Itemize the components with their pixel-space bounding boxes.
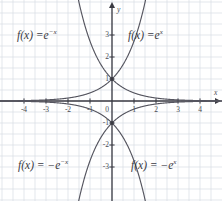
annotation-tl-lhs: f(x) =	[17, 29, 44, 41]
curve-neg-exp-x	[0, 101, 146, 201]
x-tick-1: 1	[125, 106, 143, 114]
intercept-marker	[110, 77, 114, 81]
annotation-br-exp: x	[173, 158, 176, 166]
y-tick-2: 2	[95, 53, 109, 61]
annotation-neg-exp-neg-x: f(x) = −e−x	[18, 160, 68, 172]
x-tick--3: -3	[37, 106, 55, 114]
x-axis-label: x	[214, 89, 217, 97]
annotation-bl-lhs: f(x) = −	[18, 159, 55, 171]
origin-tick: 0	[98, 106, 116, 114]
intercept-marker	[110, 121, 114, 125]
y-tick--2: -2	[95, 141, 109, 149]
y-tick-3: 3	[95, 31, 109, 39]
annotation-br-lhs: f(x) = −	[131, 159, 168, 171]
y-tick--3: -3	[95, 163, 109, 171]
annotation-tl-exp: −x	[49, 28, 57, 36]
curve-exp-neg-x	[78, 0, 222, 101]
x-tick--4: -4	[15, 106, 33, 114]
annotation-bl-exp: −x	[60, 158, 68, 166]
annotation-exp-neg-x: f(x) =e−x	[17, 30, 57, 42]
y-tick--1: -1	[95, 119, 109, 127]
x-tick-4: 4	[191, 106, 209, 114]
x-tick-2: 2	[147, 106, 165, 114]
x-tick--2: -2	[59, 106, 77, 114]
curve-exp-x	[0, 0, 146, 101]
y-tick-1: 1	[95, 75, 109, 83]
x-tick--1: -1	[81, 106, 99, 114]
exponential-functions-figure: -4-3-2-11234321-1-2-30 x y f(x) =e−x f(x…	[0, 0, 222, 201]
annotation-tr-lhs: f(x) =	[128, 29, 155, 41]
x-tick-3: 3	[169, 106, 187, 114]
annotation-tr-exp: x	[160, 28, 163, 36]
annotation-neg-exp-x: f(x) = −ex	[131, 160, 176, 172]
curve-neg-exp-neg-x	[78, 101, 222, 201]
y-axis-label: y	[117, 6, 120, 14]
annotation-exp-x: f(x) =ex	[128, 30, 163, 42]
